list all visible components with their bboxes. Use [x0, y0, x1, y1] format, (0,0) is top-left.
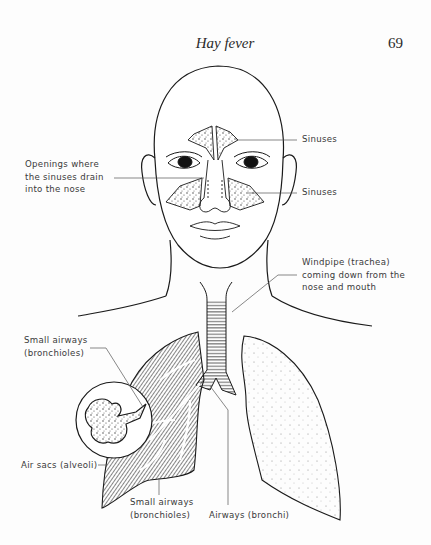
label-air-sacs: Air sacs (alveoli): [21, 459, 97, 472]
label-sinuses-lower: Sinuses: [302, 186, 337, 199]
label-small-airways-lower: Small airways (bronchioles): [130, 496, 194, 521]
right-lung: [242, 336, 341, 520]
alveoli-magnifier: [76, 382, 152, 458]
label-sinus-openings: Openings where the sinuses drain into th…: [25, 158, 104, 196]
label-small-airways-upper: Small airways (bronchioles): [24, 334, 88, 359]
label-sinuses-upper: Sinuses: [302, 133, 337, 146]
book-page: Hay fever 69: [0, 0, 431, 545]
label-airways-bronchi: Airways (bronchi): [209, 509, 289, 522]
label-windpipe: Windpipe (trachea) coming down from the …: [302, 256, 405, 294]
